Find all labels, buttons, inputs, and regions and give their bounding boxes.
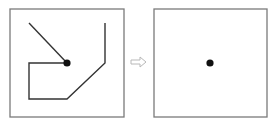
hollow-right-arrow-icon xyxy=(131,57,146,67)
right-panel xyxy=(154,9,267,117)
diagram-canvas xyxy=(0,0,278,121)
left-panel xyxy=(10,9,124,117)
diagonal-path-segment xyxy=(29,23,67,63)
point-dot xyxy=(63,59,70,66)
collapsed-point-dot xyxy=(206,59,213,66)
